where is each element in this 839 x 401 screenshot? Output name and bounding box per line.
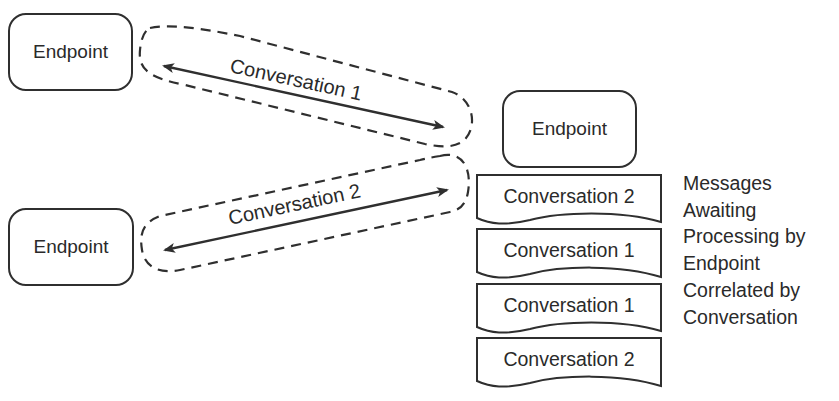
queued-message-label: Conversation 2 [503, 185, 634, 207]
annotation-line: Messages [683, 170, 805, 197]
queued-message-label: Conversation 1 [503, 294, 634, 316]
annotation-line: Conversation [683, 304, 805, 331]
queued-message-3: Conversation 1 [477, 294, 661, 317]
endpoint-label: Endpoint [33, 41, 108, 63]
endpoint-label: Endpoint [532, 118, 607, 140]
conversation-1-label: Conversation 1 [228, 54, 364, 104]
annotation-line: Processing by [683, 223, 805, 250]
endpoint-bottom-left: Endpoint [8, 208, 134, 286]
queued-message-4: Conversation 2 [477, 348, 661, 371]
queued-message-label: Conversation 2 [503, 348, 634, 370]
endpoint-top-left: Endpoint [8, 13, 133, 91]
queued-message-label: Conversation 1 [503, 239, 634, 261]
endpoint-label: Endpoint [33, 236, 108, 258]
annotation-line: Correlated by [683, 277, 805, 304]
annotation-line: Awaiting [683, 197, 805, 224]
annotation-line: Endpoint [683, 250, 805, 277]
queued-message-2: Conversation 1 [477, 239, 661, 262]
queue-annotation: Messages Awaiting Processing by Endpoint… [683, 170, 805, 330]
endpoint-right: Endpoint [502, 90, 637, 168]
queued-message-1: Conversation 2 [477, 185, 661, 208]
